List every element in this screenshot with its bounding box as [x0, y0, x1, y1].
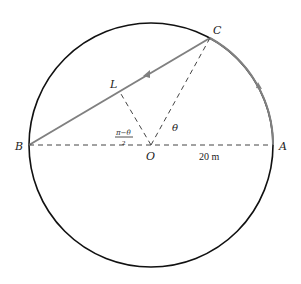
label-o: O [146, 150, 155, 163]
label-theta: θ [172, 122, 178, 133]
label-b: B [14, 140, 23, 153]
radius-oc [151, 38, 210, 145]
arc-a-to-c [210, 38, 273, 145]
label-a: A [278, 140, 287, 153]
label-radius: 20 m [199, 151, 220, 162]
label-l: L [109, 78, 117, 91]
circle-diagram: B A C L O θ π−θ 2 20 m [0, 0, 301, 284]
label-half-angle-numerator: π−θ [115, 129, 131, 137]
label-c: C [213, 24, 222, 37]
label-half-angle-denominator: 2 [122, 139, 126, 147]
